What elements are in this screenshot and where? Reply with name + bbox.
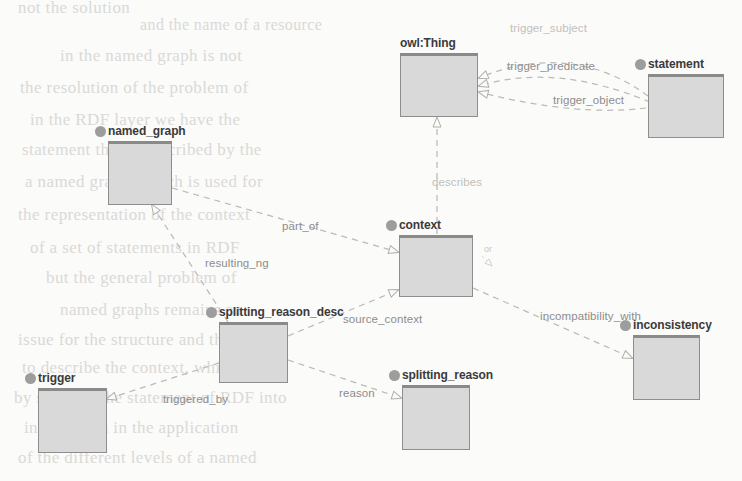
edge-label-or_marker: or (484, 244, 492, 254)
edge-label-trigger_subject: trigger_subject (510, 22, 587, 34)
node-box-context[interactable] (399, 235, 473, 297)
node-box-splitting_reason_desc[interactable] (219, 322, 288, 383)
node-label-splitting_reason_desc: splitting_reason_desc (219, 305, 344, 319)
node-layer: owl:Thingstatementnamed_graphcontextspli… (0, 0, 742, 481)
node-label-trigger: trigger (38, 371, 75, 385)
node-label-splitting_reason: splitting_reason (402, 368, 493, 382)
node-header-splitting_reason: splitting_reason (389, 368, 493, 382)
class-bullet-icon (95, 126, 106, 137)
class-bullet-icon (206, 307, 217, 318)
node-label-named_graph: named_graph (108, 124, 186, 138)
class-bullet-icon (635, 59, 646, 70)
edge-label-trigger_predicate: trigger_predicate (507, 60, 595, 72)
edge-label-trigger_object: trigger_object (553, 94, 624, 106)
class-diagram-canvas: not the solutionand the name of a resour… (0, 0, 742, 481)
edge-label-part_of: part_of (282, 220, 319, 232)
node-box-splitting_reason[interactable] (402, 385, 470, 450)
node-header-owl_thing: owl:Thing (400, 36, 456, 50)
node-header-splitting_reason_desc: splitting_reason_desc (206, 305, 344, 319)
node-box-named_graph[interactable] (108, 141, 172, 205)
node-header-context: context (386, 218, 441, 232)
node-box-owl_thing[interactable] (400, 53, 478, 117)
edge-label-source_context: source_context (343, 313, 422, 325)
class-bullet-icon (386, 220, 397, 231)
node-label-statement: statement (648, 57, 704, 71)
node-header-trigger: trigger (25, 371, 75, 385)
edge-label-triggered_by: triggered_by (163, 393, 228, 405)
node-box-inconsistency[interactable] (633, 335, 700, 400)
node-header-statement: statement (635, 57, 704, 71)
node-header-named_graph: named_graph (95, 124, 186, 138)
node-label-owl_thing: owl:Thing (400, 36, 456, 50)
edge-label-incompatibility_with: incompatibility_with (540, 310, 641, 322)
edge-label-resulting_ng: resulting_ng (205, 257, 269, 269)
class-bullet-icon (25, 373, 36, 384)
class-bullet-icon (389, 370, 400, 381)
node-label-inconsistency: inconsistency (633, 318, 712, 332)
edge-label-describes: describes (432, 176, 482, 188)
node-box-statement[interactable] (648, 74, 724, 138)
node-box-trigger[interactable] (38, 388, 107, 453)
edge-label-reason: reason (339, 387, 375, 399)
node-label-context: context (399, 218, 441, 232)
